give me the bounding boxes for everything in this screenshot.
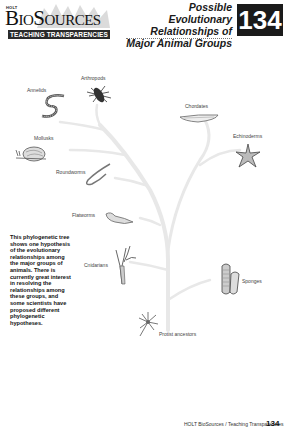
description-text: This phylogenetic tree shows one hypothe…	[10, 234, 72, 326]
cnidarian-hydra-icon	[112, 240, 138, 286]
arthropod-insect-icon	[85, 82, 113, 108]
phylogenetic-tree	[0, 0, 287, 431]
label-roundworms: Roundworms	[56, 169, 85, 175]
footer-page-number: 134	[266, 419, 279, 428]
label-sponges: Sponges	[242, 278, 262, 284]
sponge-icon	[218, 262, 242, 298]
annelid-worm-icon	[38, 92, 68, 120]
flatworm-icon	[103, 210, 135, 226]
chordate-lancelet-icon	[178, 112, 220, 124]
roundworm-icon	[82, 162, 112, 188]
label-cnidarians: Cnidarians	[84, 262, 108, 268]
echinoderm-starfish-icon	[234, 142, 262, 170]
label-mollusks: Mollusks	[34, 135, 53, 141]
label-flatworms: Flatworms	[72, 212, 95, 218]
label-echinoderms: Echinoderms	[233, 133, 262, 139]
label-protist-ancestors: Protist ancestors	[159, 331, 196, 337]
mollusk-snail-icon	[14, 144, 48, 162]
label-arthropods: Arthropods	[81, 75, 105, 81]
protist-icon	[136, 310, 160, 338]
label-chordates: Chordates	[185, 103, 208, 109]
label-annelids: Annelids	[27, 87, 46, 93]
